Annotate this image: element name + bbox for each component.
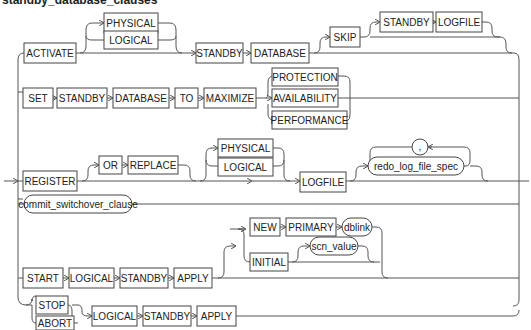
keyword-logical-label: LOGICAL xyxy=(109,35,153,46)
keyword-standby-label: STANDBY xyxy=(196,48,243,59)
keyword-physical-label: PHYSICAL xyxy=(106,18,156,29)
row-register: REGISTER OR REPLACE PHYSICAL LOGICAL LOG… xyxy=(23,139,519,192)
keyword-stop-logical-label: LOGICAL xyxy=(93,311,137,322)
keyword-logfile-label: LOGFILE xyxy=(438,17,481,28)
nonterminal-dblink-label: dblink xyxy=(344,222,371,233)
keyword-stop-label: STOP xyxy=(38,300,65,311)
row-activate: ACTIVATE PHYSICAL LOGICAL STANDBY DATABA… xyxy=(24,12,514,63)
keyword-primary-label: PRIMARY xyxy=(288,222,334,233)
keyword-new-label: NEW xyxy=(253,222,277,233)
keyword-set-database-label: DATABASE xyxy=(115,93,167,104)
nonterminal-redo-log-file-spec-label: redo_log_file_spec xyxy=(374,161,458,172)
keyword-maximize-label: MAXIMIZE xyxy=(206,93,255,104)
keyword-or-label: OR xyxy=(103,160,118,171)
keyword-availability-label: AVAILABILITY xyxy=(273,93,337,104)
keyword-register-label: REGISTER xyxy=(24,176,75,187)
keyword-start-standby-label: STANDBY xyxy=(121,273,168,284)
keyword-register-logical-label: LOGICAL xyxy=(224,162,268,173)
row-set: SET STANDBY DATABASE TO MAXIMIZE PROTECT… xyxy=(23,68,519,129)
keyword-skip-standby-label: STANDBY xyxy=(383,17,430,28)
keyword-replace-label: REPLACE xyxy=(130,160,177,171)
keyword-activate-label: ACTIVATE xyxy=(26,48,74,59)
keyword-start-apply-label: APPLY xyxy=(177,273,209,284)
keyword-stop-standby-label: STANDBY xyxy=(144,311,191,322)
keyword-to-label: TO xyxy=(180,93,194,104)
row-start: START LOGICAL STANDBY APPLY NEW PRIMARY … xyxy=(23,218,519,288)
keyword-database-label: DATABASE xyxy=(254,48,306,59)
nonterminal-commit-switchover-clause-label: commit_switchover_clause xyxy=(18,199,138,210)
keyword-skip-label: SKIP xyxy=(334,32,357,43)
syntax-diagram: ACTIVATE PHYSICAL LOGICAL STANDBY DATABA… xyxy=(0,0,531,330)
row-commit: commit_switchover_clause xyxy=(18,195,519,213)
keyword-set-label: SET xyxy=(28,93,47,104)
nonterminal-scn-value-label: scn_value xyxy=(311,241,356,252)
keyword-start-logical-label: LOGICAL xyxy=(70,273,114,284)
keyword-set-standby-label: STANDBY xyxy=(59,93,106,104)
row-stop: STOP ABORT LOGICAL STANDBY APPLY xyxy=(26,296,519,330)
keyword-abort-label: ABORT xyxy=(38,318,72,329)
keyword-stop-apply-label: APPLY xyxy=(201,311,233,322)
keyword-start-label: START xyxy=(27,273,59,284)
separator-comma-label: , xyxy=(419,141,422,152)
keyword-initial-label: INITIAL xyxy=(252,257,286,268)
keyword-protection-label: PROTECTION xyxy=(272,72,338,83)
keyword-performance-label: PERFORMANCE xyxy=(271,115,349,126)
keyword-register-physical-label: PHYSICAL xyxy=(221,143,271,154)
keyword-register-logfile-label: LOGFILE xyxy=(302,177,345,188)
